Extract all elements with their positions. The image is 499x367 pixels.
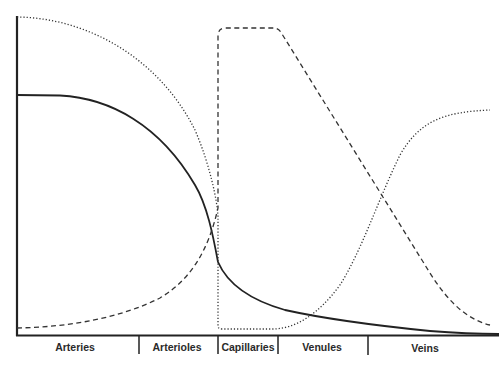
segment-label-capillaries: Capillaries: [221, 341, 274, 353]
solid-series-line: [17, 95, 499, 334]
segment-label-venules: Venules: [302, 341, 342, 353]
segment-label-veins: Veins: [411, 342, 439, 354]
vessel-comparison-chart: Arteries Arterioles Capillaries Venules …: [0, 0, 499, 367]
segment-label-arterioles: Arterioles: [152, 341, 201, 353]
dotted-series-line: [17, 17, 490, 329]
segment-label-arteries: Arteries: [55, 341, 95, 353]
dashed-series-line: [17, 28, 490, 328]
